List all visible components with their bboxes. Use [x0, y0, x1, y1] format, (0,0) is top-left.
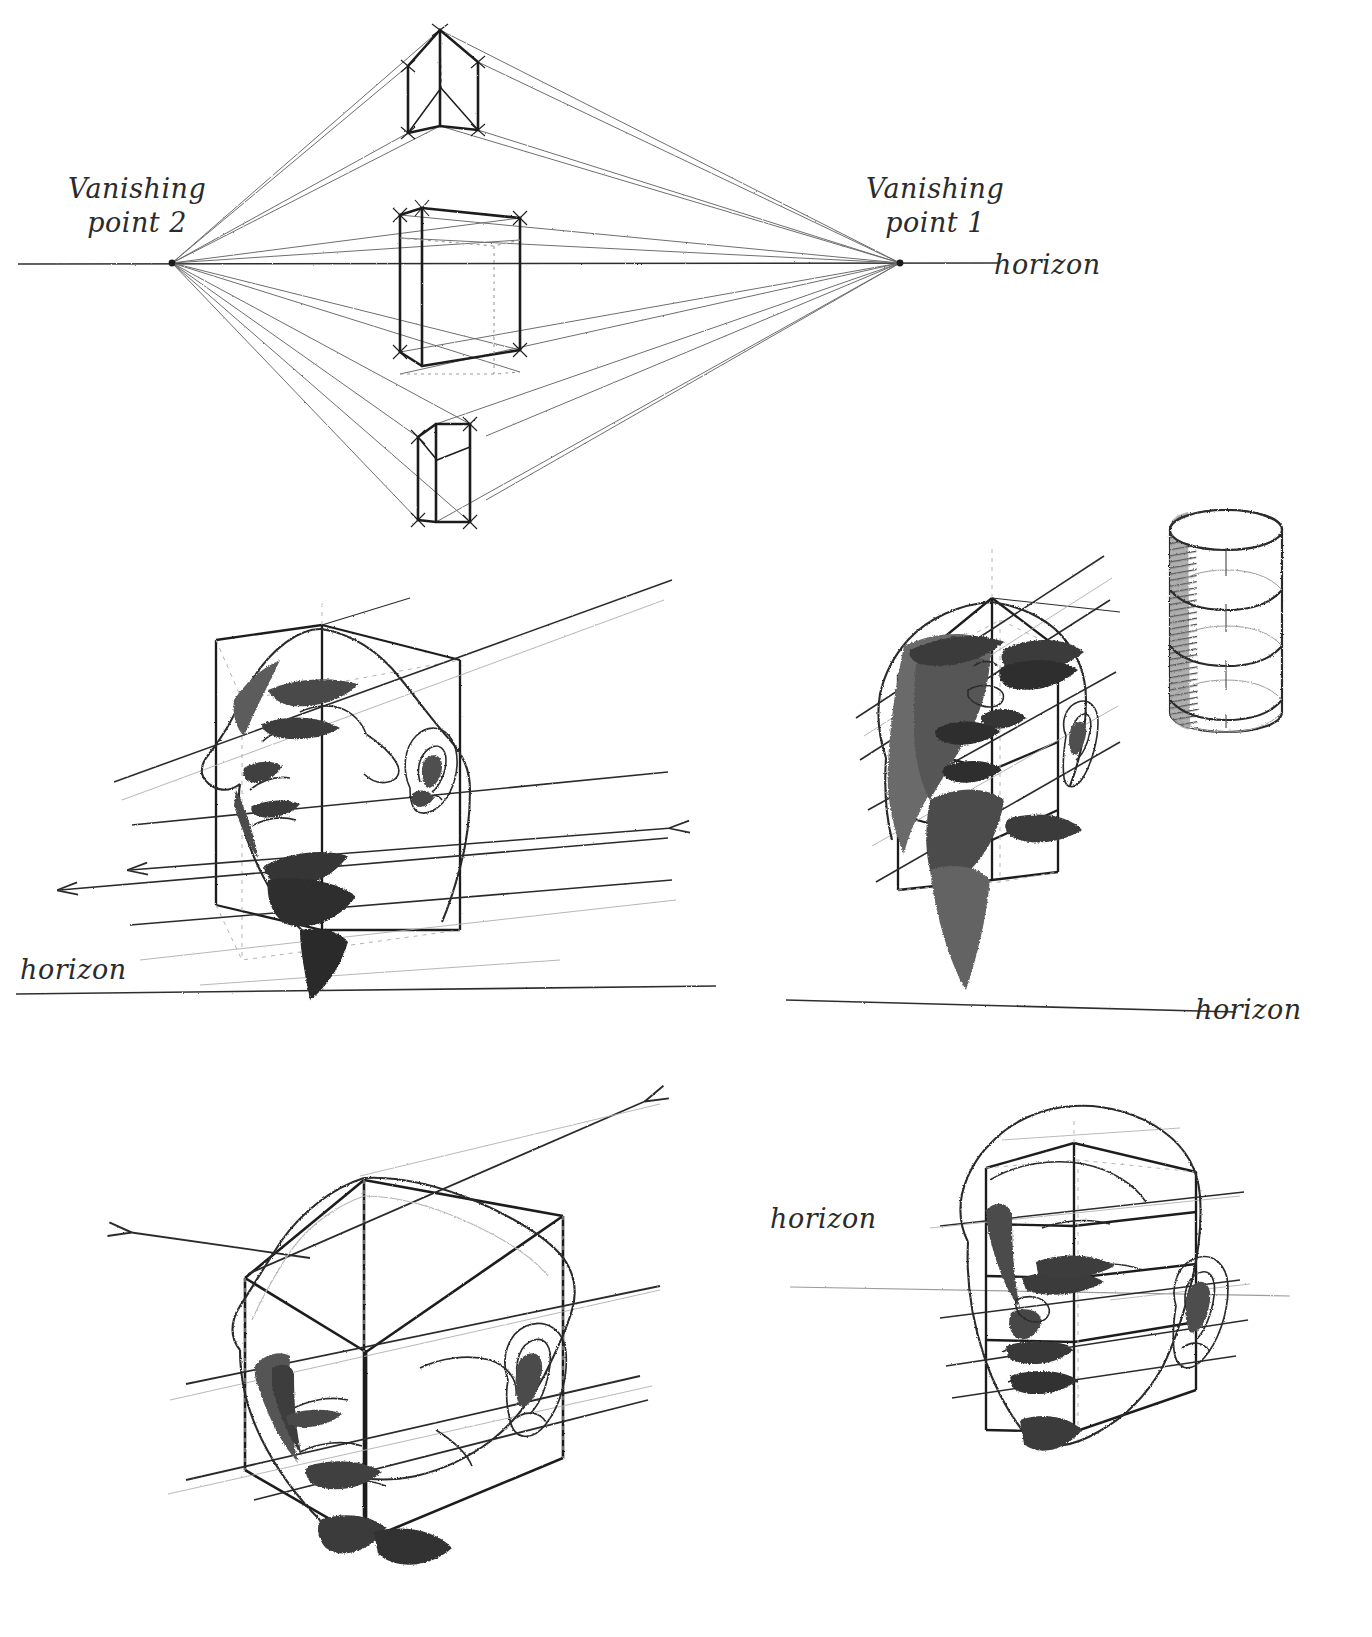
cube-above-horizon-ticks: [401, 24, 485, 139]
cube-on-horizon: [400, 208, 520, 366]
figure-two-point-perspective: [18, 24, 1000, 529]
shaded-features-bottom-right: [986, 1204, 1114, 1451]
face-shading-right: [888, 634, 1004, 990]
figure-head-below-eye-level-right: [856, 548, 1120, 990]
cylinder-top-ellipse: [1170, 510, 1282, 550]
cube-below-horizon-ticks: [411, 417, 477, 529]
horizon-label-mid-right: horizon: [1195, 993, 1302, 1027]
cube-above-horizon: [408, 30, 478, 133]
perspective-guide-lines-left-head: [60, 580, 672, 925]
vanishing-point-1-label-line2: point 1: [866, 206, 1004, 240]
shaded-features-left: [233, 660, 358, 1000]
horizon-label-top-right: horizon: [994, 248, 1101, 282]
perspective-guides-bottom-left-faint: [168, 1104, 660, 1494]
horizon-line-top: [18, 263, 1000, 264]
figure-head-above-eye-level-left: [60, 580, 676, 1000]
perspective-guide-lines-left-head-faint: [122, 600, 676, 985]
horizon-label-mid-left: horizon: [20, 953, 127, 987]
vanishing-point-2-label-line2: point 2: [68, 206, 206, 240]
construction-box-bottom-left: [245, 1180, 563, 1540]
convergence-rays-right-vp: [400, 30, 900, 522]
vanishing-point-2-label-line1: Vanishing: [68, 172, 206, 206]
vanishing-point-1-label-line1: Vanishing: [866, 172, 1004, 206]
head-outline-bottom-left: [233, 1178, 575, 1520]
ear-shading-left: [412, 755, 442, 807]
figure-head-eye-level-bottom-right: [790, 1106, 1290, 1451]
perspective-arrows-bottom-left: [128, 1100, 660, 1500]
pencil-sketch-canvas: [0, 0, 1372, 1637]
figure-head-large-box-bottom-left: [128, 1100, 660, 1565]
hairline-bottom-right: [990, 1162, 1146, 1202]
vanishing-point-1-label: Vanishing point 1: [866, 172, 1004, 240]
drawing-page: Vanishing point 2 Vanishing point 1 hori…: [0, 0, 1372, 1637]
horizon-label-bottom-right: horizon: [770, 1202, 877, 1236]
vanishing-point-1-marker: [897, 260, 904, 267]
vanishing-point-2-marker: [169, 260, 176, 267]
figure-shaded-cylinder: [1170, 510, 1282, 732]
horizon-line-mid-left: [16, 986, 716, 994]
horizon-line-mid-right: [786, 1000, 1236, 1012]
shaded-features-bottom-left: [255, 1353, 452, 1564]
vanishing-point-2-label: Vanishing point 2: [68, 172, 206, 240]
